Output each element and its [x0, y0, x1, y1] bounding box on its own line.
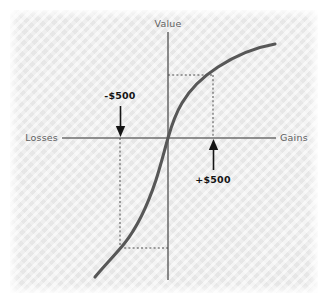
down-arrow-icon: [116, 106, 125, 137]
value-function-curve: [95, 44, 275, 277]
loss-annotation-label: -$500: [104, 90, 136, 101]
value-function-figure: Value Losses Gains -$500 +$500: [0, 0, 328, 302]
gain-annotation-label: +$500: [195, 174, 231, 185]
y-axis-label: Value: [154, 18, 181, 29]
value-function-chart: Value Losses Gains -$500 +$500: [10, 10, 318, 293]
x-axis-left-label: Losses: [25, 132, 58, 143]
axes-group: [62, 32, 276, 280]
up-arrow-icon: [209, 139, 218, 170]
gain-annotation-group: +$500: [195, 139, 231, 185]
loss-annotation-group: -$500: [104, 90, 136, 137]
x-axis-right-label: Gains: [280, 132, 308, 143]
chart-panel: Value Losses Gains -$500 +$500: [10, 10, 318, 293]
